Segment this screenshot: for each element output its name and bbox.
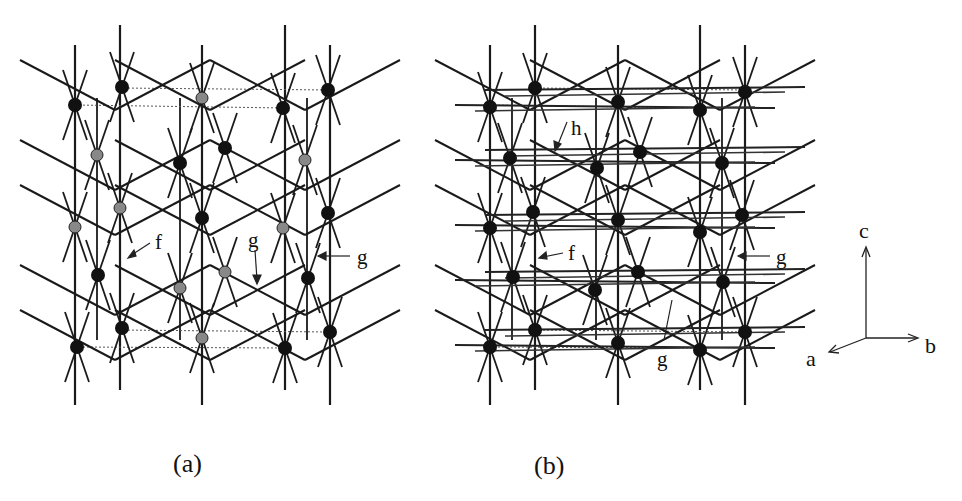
atom-node [611, 336, 625, 350]
diagonal-bond [305, 185, 400, 235]
diagonal-bond [435, 310, 530, 360]
atom-node [588, 283, 602, 297]
atom-node [611, 95, 625, 109]
atom-node [735, 208, 749, 222]
axis-label-b: b [925, 333, 936, 358]
unit-cell-edge [75, 347, 285, 348]
label-h-b: h [571, 116, 582, 140]
atom-node-light [277, 222, 289, 234]
atom-node [321, 83, 335, 97]
atom-node [590, 161, 604, 175]
diagonal-bond [720, 310, 815, 360]
atom-node-light [196, 332, 208, 344]
axis-label-c: c [859, 218, 869, 243]
atom-node [483, 100, 497, 114]
atom-node [483, 221, 497, 235]
atom-node [738, 85, 752, 99]
diagonal-bond [720, 265, 815, 315]
atom-node [611, 213, 625, 227]
atom-node [738, 325, 752, 339]
atom-node-light [114, 202, 126, 214]
diagonal-bond [305, 60, 400, 110]
diagonal-bond [305, 265, 400, 315]
atom-node [115, 80, 129, 94]
atom-node [693, 225, 707, 239]
axis-label-a: a [806, 346, 816, 371]
panel-b-caption: (b) [534, 451, 564, 480]
crystal-structure-figure: c b a (a) (b) f g g h f g g [0, 0, 962, 501]
panel-a-caption: (a) [173, 449, 202, 478]
atom-node [526, 205, 540, 219]
atom-node [503, 151, 517, 165]
atom-node [173, 156, 187, 170]
atom-node-light [174, 282, 186, 294]
atom-node-light [219, 266, 231, 278]
atom-node [323, 325, 337, 339]
panel-b-structure [435, 25, 815, 405]
atom-node [195, 211, 209, 225]
axis-triad [829, 247, 918, 353]
atom-node [693, 343, 707, 357]
panel-a-structure [20, 25, 400, 405]
atom-node [528, 81, 542, 95]
atom-node-light [299, 154, 311, 166]
diagonal-bond [20, 185, 115, 235]
atom-node [506, 270, 520, 284]
atom-node-light [91, 149, 103, 161]
atom-node [528, 323, 542, 337]
horizontal-bond [485, 269, 805, 272]
label-g-a1: g [248, 228, 259, 252]
atom-node [631, 265, 645, 279]
atom-node [715, 156, 729, 170]
label-g-b1: g [776, 245, 787, 269]
diagonal-bond [305, 310, 400, 360]
atom-node [321, 206, 335, 220]
atom-node [301, 271, 315, 285]
horizontal-bond [475, 162, 755, 166]
atom-node [91, 268, 105, 282]
atom-node [68, 98, 82, 112]
diagonal-bond [305, 140, 400, 190]
atom-node-light [196, 92, 208, 104]
atom-node [483, 340, 497, 354]
atom-node [115, 321, 129, 335]
label-g-b2: g [657, 347, 668, 371]
atom-node [70, 340, 84, 354]
label-g-a2: g [357, 245, 368, 269]
label-f-b: f [568, 241, 575, 265]
atom-node [716, 275, 730, 289]
atom-node [278, 341, 292, 355]
atom-node-light [69, 221, 81, 233]
atom-node [276, 101, 290, 115]
atom-node [633, 145, 647, 159]
label-f-a: f [155, 230, 162, 254]
atom-node [218, 141, 232, 155]
atom-node [693, 103, 707, 117]
diagonal-bond [435, 185, 530, 235]
diagonal-bond [720, 60, 815, 110]
